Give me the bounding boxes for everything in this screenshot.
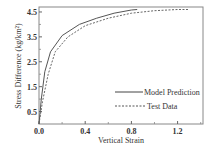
plot-frame (39, 7, 203, 124)
chart: 0.51.52.53.54.5 0.00.40.81.2 Model Predi… (0, 0, 220, 152)
x-tick-label: 0.4 (80, 127, 90, 136)
y-tick-label: 0.5 (27, 108, 37, 117)
x-tick-label: 0.8 (126, 127, 136, 136)
x-tick-label: 0.0 (34, 127, 44, 136)
y-tick-label: 3.5 (27, 33, 37, 42)
x-axis-ticks: 0.00.40.81.2 (34, 121, 201, 136)
x-tick-label: 1.2 (173, 127, 183, 136)
y-axis-label: Stress Difference (kg/km²) (14, 23, 23, 109)
x-axis-label: Vertical Strain (98, 136, 144, 145)
model-prediction-line (39, 10, 137, 125)
legend-label-model: Model Prediction (144, 88, 200, 97)
y-tick-label: 4.5 (27, 8, 37, 17)
y-tick-label: 2.5 (27, 58, 37, 67)
y-tick-label: 1.5 (27, 83, 37, 92)
legend: Model Prediction Test Data (115, 88, 200, 111)
y-axis-ticks: 0.51.52.53.54.5 (27, 8, 42, 117)
legend-label-test: Test Data (147, 102, 178, 111)
